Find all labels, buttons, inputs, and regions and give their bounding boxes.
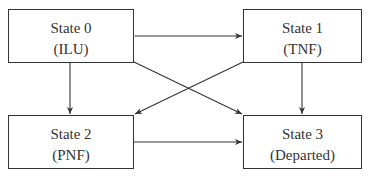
state-2-box: State 2 (PNF) <box>8 115 134 169</box>
state-3-name: State 3 <box>244 125 361 143</box>
state-1-box: State 1 (TNF) <box>243 9 362 63</box>
state-1-abbr: (TNF) <box>244 40 361 58</box>
state-0-box: State 0 (ILU) <box>8 9 134 63</box>
state-3-abbr: (Departed) <box>244 146 361 164</box>
state-2-name: State 2 <box>9 125 133 143</box>
figure-caption-cut-off <box>120 176 250 181</box>
state-0-name: State 0 <box>9 19 133 37</box>
state-1-name: State 1 <box>244 19 361 37</box>
state-0-abbr: (ILU) <box>9 40 133 58</box>
state-3-box: State 3 (Departed) <box>243 115 362 169</box>
state-2-abbr: (PNF) <box>9 146 133 164</box>
